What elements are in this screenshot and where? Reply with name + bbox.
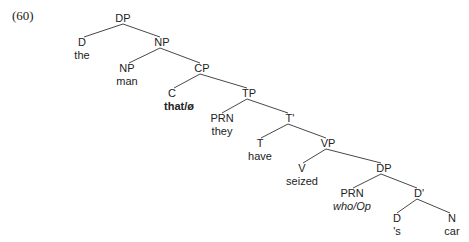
node-c: C bbox=[168, 88, 176, 99]
node-cp: CP bbox=[194, 63, 209, 74]
node-prn: PRN bbox=[210, 113, 233, 124]
node-tp: TP bbox=[242, 88, 256, 99]
word-man: man bbox=[116, 76, 137, 87]
node-vp: VP bbox=[321, 138, 336, 149]
node-d-possessive: D bbox=[393, 213, 401, 224]
word-seized: seized bbox=[286, 176, 318, 187]
word-car: car bbox=[444, 226, 459, 237]
node-v: V bbox=[298, 163, 305, 174]
word-s: 's bbox=[393, 226, 401, 237]
word-have: have bbox=[248, 151, 272, 162]
node-n: N bbox=[448, 213, 456, 224]
node-d: D bbox=[78, 37, 86, 48]
node-dp-root: DP bbox=[115, 13, 130, 24]
node-np: NP bbox=[154, 37, 169, 48]
word-the: the bbox=[74, 50, 89, 61]
node-dp-object: DP bbox=[376, 163, 391, 174]
word-they: they bbox=[212, 126, 233, 137]
node-t-bar: T' bbox=[286, 113, 295, 124]
node-prn-possessor: PRN bbox=[340, 188, 363, 199]
node-t: T bbox=[257, 138, 264, 149]
tree-branches bbox=[0, 0, 469, 242]
word-that: that/ø bbox=[164, 101, 194, 112]
node-d-bar: D' bbox=[414, 188, 424, 199]
node-np-inner: NP bbox=[119, 63, 134, 74]
word-who-op: who/Op bbox=[333, 201, 371, 212]
